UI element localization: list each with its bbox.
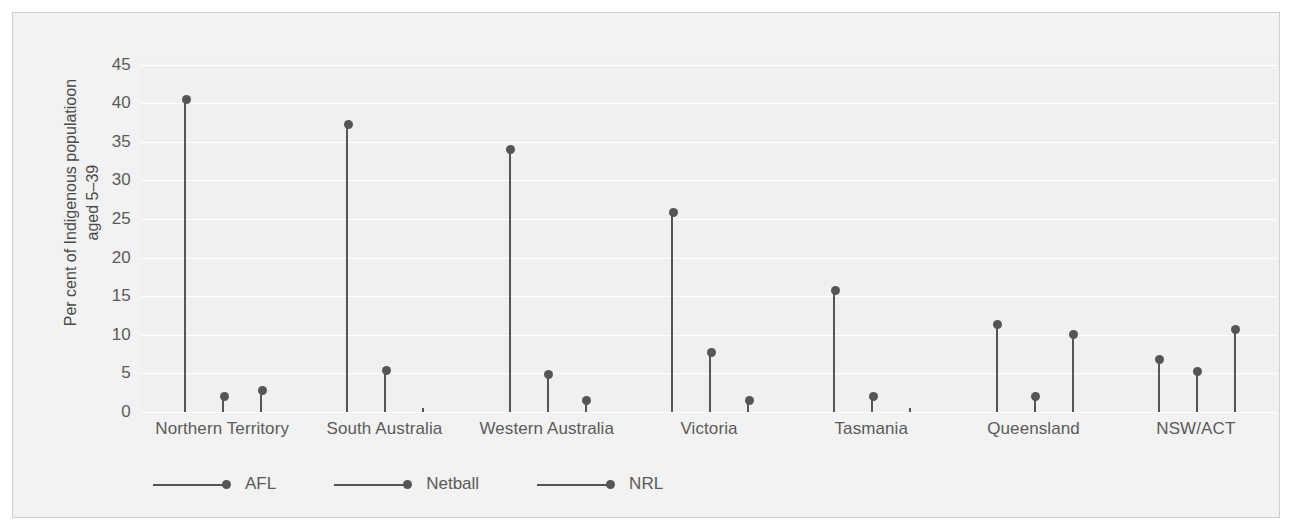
data-point-afl-2 <box>506 145 515 154</box>
stem-nrl-1 <box>422 408 424 412</box>
data-point-netball-2 <box>544 370 553 379</box>
legend-label: AFL <box>245 474 276 494</box>
x-tick-label: Queensland <box>987 419 1080 439</box>
y-axis-ticks: 051015202530354045 <box>83 57 131 412</box>
plot-area <box>141 57 1277 412</box>
data-point-afl-1 <box>344 120 353 129</box>
gridline <box>141 335 1277 336</box>
stem-afl-0 <box>184 99 186 412</box>
data-point-nrl-5 <box>1069 330 1078 339</box>
chart-figure: Per cent of Indigenous populatioon aged … <box>0 0 1294 532</box>
y-tick-label: 40 <box>91 93 131 113</box>
gridline <box>141 103 1277 104</box>
legend-item-netball[interactable]: Netball <box>334 474 479 494</box>
stem-netball-1 <box>384 370 386 412</box>
gridline <box>141 296 1277 297</box>
data-point-netball-5 <box>1031 392 1040 401</box>
stem-afl-1 <box>346 125 348 412</box>
legend-stem-icon <box>537 480 615 489</box>
legend-item-afl[interactable]: AFL <box>153 474 276 494</box>
data-point-afl-3 <box>669 208 678 217</box>
stem-nrl-5 <box>1072 334 1074 412</box>
x-tick-label: Northern Territory <box>155 419 289 439</box>
stem-nrl-4 <box>909 408 911 412</box>
y-tick-label: 10 <box>91 325 131 345</box>
y-tick-label: 20 <box>91 248 131 268</box>
stem-afl-5 <box>996 325 998 412</box>
gridline <box>141 65 1277 66</box>
x-tick-label: Victoria <box>680 419 737 439</box>
data-point-afl-6 <box>1155 355 1164 364</box>
chart-legend: AFLNetballNRL <box>153 469 721 499</box>
gridline <box>141 219 1277 220</box>
legend-label: Netball <box>426 474 479 494</box>
data-point-afl-4 <box>831 286 840 295</box>
data-point-nrl-2 <box>582 396 591 405</box>
legend-item-nrl[interactable]: NRL <box>537 474 663 494</box>
x-tick-label: NSW/ACT <box>1156 419 1235 439</box>
data-point-afl-5 <box>993 320 1002 329</box>
data-point-netball-1 <box>382 366 391 375</box>
data-point-nrl-6 <box>1231 325 1240 334</box>
data-point-netball-0 <box>220 392 229 401</box>
figure-frame: Per cent of Indigenous populatioon aged … <box>12 12 1280 518</box>
axis-baseline <box>141 412 1277 413</box>
legend-stem-icon <box>153 480 231 489</box>
data-point-netball-6 <box>1193 367 1202 376</box>
y-tick-label: 25 <box>91 209 131 229</box>
stem-netball-6 <box>1196 372 1198 412</box>
y-axis-title-line-1: Per cent of Indigenous populatioon <box>60 38 82 368</box>
gridline <box>141 258 1277 259</box>
data-point-netball-4 <box>869 392 878 401</box>
legend-stem-icon <box>334 480 412 489</box>
y-tick-label: 30 <box>91 170 131 190</box>
data-point-nrl-0 <box>258 386 267 395</box>
stem-netball-2 <box>547 374 549 412</box>
stem-afl-6 <box>1158 360 1160 412</box>
y-tick-label: 35 <box>91 132 131 152</box>
x-axis-labels: Northern TerritorySouth AustraliaWestern… <box>141 419 1277 449</box>
data-point-afl-0 <box>182 95 191 104</box>
x-tick-label: South Australia <box>326 419 442 439</box>
stem-afl-3 <box>671 212 673 412</box>
stem-netball-3 <box>709 353 711 412</box>
y-tick-label: 45 <box>91 55 131 75</box>
y-tick-label: 5 <box>91 363 131 383</box>
stem-afl-2 <box>509 150 511 412</box>
x-tick-label: Tasmania <box>835 419 909 439</box>
gridline <box>141 142 1277 143</box>
legend-label: NRL <box>629 474 663 494</box>
gridline <box>141 180 1277 181</box>
stem-nrl-6 <box>1234 329 1236 412</box>
stem-afl-4 <box>833 290 835 412</box>
y-tick-label: 0 <box>91 402 131 422</box>
y-tick-label: 15 <box>91 286 131 306</box>
x-tick-label: Western Australia <box>479 419 614 439</box>
data-point-nrl-3 <box>745 396 754 405</box>
data-point-netball-3 <box>707 348 716 357</box>
